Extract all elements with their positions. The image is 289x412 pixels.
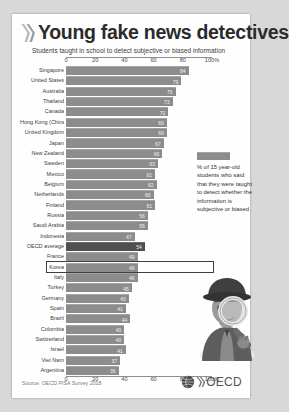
bar-track: 60 [66, 190, 212, 199]
bar-category-label: Canada [20, 108, 64, 114]
bar-value-label: 79 [173, 79, 179, 85]
bar-value-label: 84 [180, 68, 186, 74]
bar-category-label: Spain [20, 305, 64, 311]
bar-category-label: Argentina [20, 367, 64, 373]
bar-category-label: United States [20, 77, 64, 83]
bar-category-label: Australia [20, 88, 64, 94]
bar: 54 [66, 242, 145, 251]
bar: 40 [66, 325, 124, 334]
bar-value-label: 41 [117, 306, 123, 312]
bar: 43 [66, 294, 129, 303]
bar-value-label: 40 [116, 337, 122, 343]
bar-category-label: Israel [20, 346, 64, 352]
bar-value-label: 40 [116, 327, 122, 333]
bar-category-label: Saudi Arabia [20, 222, 64, 228]
x-axis-tick-label: 60 [150, 57, 156, 63]
bar-track: 44 [66, 314, 212, 323]
bar-value-label: 49 [129, 254, 135, 260]
logo-chevron-icon [196, 376, 205, 388]
bar: 56 [66, 211, 148, 220]
bar-value-label: 63 [149, 161, 155, 167]
bar-category-label: Belgium [20, 181, 64, 187]
bar-track: 63 [66, 159, 212, 168]
x-axis-tick-label: 40 [121, 57, 127, 63]
bar-row: OECD average54 [20, 242, 242, 251]
bar: 44 [66, 314, 130, 323]
bar-category-label: Italy [20, 274, 64, 280]
side-caption: % of 15 year-old students who said that … [197, 163, 253, 213]
bar-value-label: 67 [155, 141, 161, 147]
bar-value-label: 61 [146, 172, 152, 178]
bar-category-label: Mexico [20, 171, 64, 177]
bar-category-label: Russia [20, 212, 64, 218]
bar-category-label: Singapore [20, 67, 64, 73]
bar-track: 70 [66, 107, 212, 116]
bar: 69 [66, 118, 167, 127]
bar-track: 40 [66, 325, 212, 334]
bar: 40 [66, 335, 124, 344]
bar: 61 [66, 169, 155, 178]
bar-value-label: 69 [158, 130, 164, 136]
bar-row: United States79 [20, 76, 242, 85]
bar-value-label: 54 [136, 244, 142, 250]
bar: 79 [66, 76, 181, 85]
bar: 49 [66, 273, 138, 282]
bar-category-label: Netherlands [20, 191, 64, 197]
x-axis-top: 020406080100% [20, 57, 242, 66]
bar-value-label: 49 [129, 275, 135, 281]
bar-chart: 020406080100% Singapore84United States79… [20, 57, 242, 379]
detective-with-magnifying-glass-illustration [196, 275, 258, 361]
bar: 61 [66, 200, 155, 209]
source-note: Source: OECD PISA Survey 2018 [22, 380, 102, 386]
bar-category-label: Brazil [20, 315, 64, 321]
bar-row: Saudi Arabia56 [20, 221, 242, 230]
bar-track: 73 [66, 97, 212, 106]
bar: 67 [66, 138, 164, 147]
bar-value-label: 49 [129, 265, 135, 271]
bar-row: Japan67 [20, 138, 242, 147]
bar-value-label: 45 [123, 286, 129, 292]
bar-track: 37 [66, 356, 212, 365]
bar-row: Australia75 [20, 87, 242, 96]
footer: Source: OECD PISA Survey 2018 OECD [20, 374, 242, 394]
bar: 41 [66, 304, 126, 313]
bar-row: Singapore84 [20, 66, 242, 75]
bar-row: Indonesia47 [20, 232, 242, 241]
bar-value-label: 62 [148, 182, 154, 188]
bar-row: United Kingdom69 [20, 128, 242, 137]
bar-value-label: 47 [126, 234, 132, 240]
oecd-logo: OECD [181, 374, 242, 390]
x-axis-tick-label: 100% [205, 57, 219, 63]
bar-track: 69 [66, 128, 212, 137]
bar-row: Hong Kong (China)69 [20, 118, 242, 127]
bar-value-label: 43 [120, 296, 126, 302]
bar-category-label: New Zealand [20, 150, 64, 156]
bar-track: 49 [66, 263, 212, 272]
bar-category-label: OECD average [20, 243, 64, 249]
bar: 75 [66, 87, 176, 96]
bar-value-label: 44 [122, 317, 128, 323]
bar-value-label: 41 [117, 348, 123, 354]
bar-value-label: 75 [167, 89, 173, 95]
bar-category-label: Switzerland [20, 336, 64, 342]
bar-category-label: Japan [20, 140, 64, 146]
chart-subtitle: Students taught in school to detect subj… [32, 47, 242, 54]
bar-row: Korea49 [20, 263, 242, 272]
bar-category-label: Viet Nam [20, 357, 64, 363]
bar-value-label: 56 [139, 223, 145, 229]
page-title: Young fake news detectives [38, 20, 244, 44]
bar-track: 69 [66, 118, 212, 127]
bar-row: Thailand73 [20, 97, 242, 106]
bar: 66 [66, 149, 162, 158]
bar-value-label: 61 [146, 203, 152, 209]
bar: 49 [66, 263, 138, 272]
bar-value-label: 70 [160, 110, 166, 116]
bar-value-label: 56 [139, 213, 145, 219]
bar-track: 41 [66, 345, 212, 354]
bar-track: 56 [66, 211, 212, 220]
bar-track: 66 [66, 149, 212, 158]
bar-category-label: Colombia [20, 326, 64, 332]
bar: 70 [66, 107, 168, 116]
bar-category-label: France [20, 253, 64, 259]
x-axis-tick-label: 80 [180, 57, 186, 63]
